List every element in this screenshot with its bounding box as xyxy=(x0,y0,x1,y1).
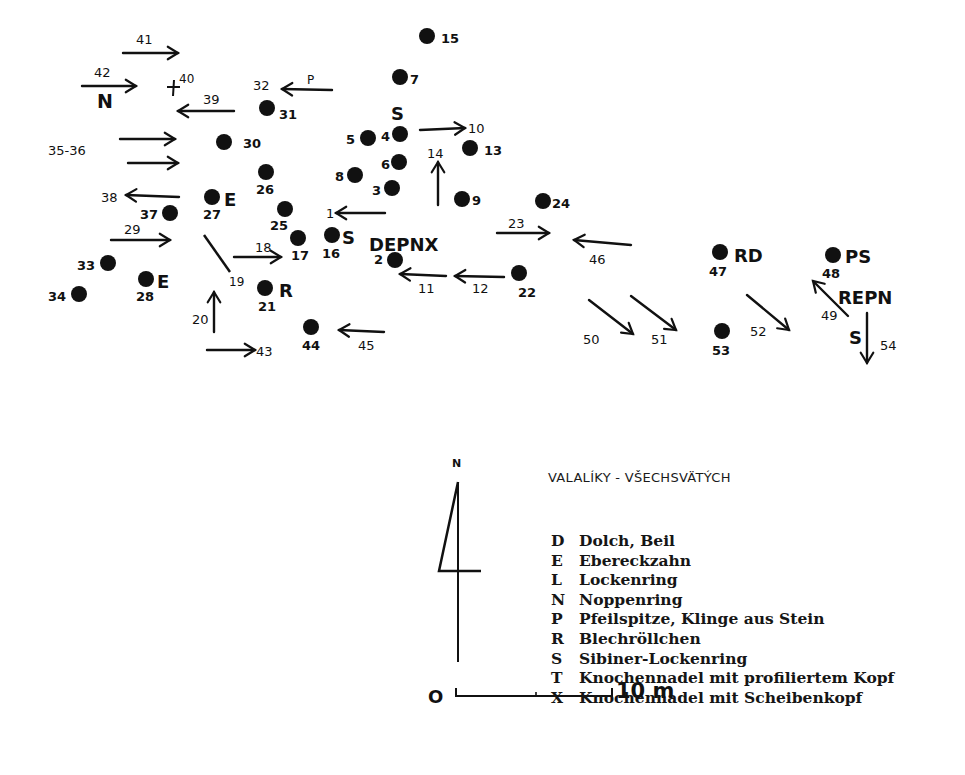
point-label-31: 31 xyxy=(279,107,297,122)
point-label-47: 47 xyxy=(709,264,727,279)
legend-key: E xyxy=(551,551,579,571)
find-point-24-icon xyxy=(535,193,551,209)
point-label-53: 53 xyxy=(712,343,730,358)
label-layer: 1573130541368392426273725171622233283421… xyxy=(48,31,897,359)
legend-item-p: PPfeilspitze, Klinge aus Stein xyxy=(551,609,894,629)
category-mark-S-54: S xyxy=(849,327,862,348)
scale-end-label: 10 m xyxy=(616,679,674,703)
find-point-34-icon xyxy=(71,286,87,302)
arrow-label-29: 29 xyxy=(124,222,141,237)
north-label: N xyxy=(452,457,461,470)
find-point-47-icon xyxy=(712,244,728,260)
find-point-9-icon xyxy=(454,191,470,207)
arrow-43-icon xyxy=(207,344,255,357)
label-19: 19 xyxy=(229,275,244,289)
arrow-label-52: 52 xyxy=(750,324,767,339)
label-35-36: 35-36 xyxy=(48,143,86,158)
object-19-stroke xyxy=(204,235,230,272)
legend-text: Dolch, Beil xyxy=(579,531,675,551)
arrow-35-icon xyxy=(120,133,175,146)
arrow-label-38: 38 xyxy=(101,190,118,205)
point-label-34: 34 xyxy=(48,289,66,304)
legend-key: S xyxy=(551,649,579,669)
cross-marker-icon xyxy=(173,80,174,96)
find-point-48-icon xyxy=(825,247,841,263)
point-label-6: 6 xyxy=(381,157,390,172)
find-point-30-icon xyxy=(216,134,232,150)
find-point-17-icon xyxy=(290,230,306,246)
point-label-16: 16 xyxy=(322,246,340,261)
legend-text: Ebereckzahn xyxy=(579,551,691,571)
category-mark-REPN: REPN xyxy=(838,287,892,308)
legend-key: L xyxy=(551,570,579,590)
legend-text: Blechröllchen xyxy=(579,629,701,649)
find-point-28-icon xyxy=(138,271,154,287)
legend-item-e: EEbereckzahn xyxy=(551,551,894,571)
arrow-label-45: 45 xyxy=(358,338,375,353)
find-point-8-icon xyxy=(347,167,363,183)
point-label-4: 4 xyxy=(381,129,390,144)
find-point-27-icon xyxy=(204,189,220,205)
category-mark-E-27: E xyxy=(224,189,236,210)
find-point-53-icon xyxy=(714,323,730,339)
arrow-14-icon xyxy=(432,162,445,205)
cross-marker-layer xyxy=(167,80,230,272)
arrow-20-icon xyxy=(208,292,221,332)
category-mark-E-28: E xyxy=(157,271,169,292)
find-point-21-icon xyxy=(257,280,273,296)
arrow-label-46: 46 xyxy=(589,252,606,267)
point-label-9: 9 xyxy=(472,193,481,208)
north-arrow-icon xyxy=(439,482,481,662)
arrow-label-51: 51 xyxy=(651,332,668,347)
category-mark-PS-48: PS xyxy=(845,246,871,267)
arrow-1-icon xyxy=(336,207,385,220)
legend-key: P xyxy=(551,609,579,629)
arrow-label-32: 32 xyxy=(253,78,270,93)
arrow-label-12: 12 xyxy=(472,281,489,296)
point-label-25: 25 xyxy=(270,218,288,233)
find-point-44-icon xyxy=(303,319,319,335)
point-label-48: 48 xyxy=(822,266,840,281)
find-point-13-icon xyxy=(462,140,478,156)
arrow-label-39: 39 xyxy=(203,92,220,107)
find-point-16-icon xyxy=(324,227,340,243)
arrow-36-icon xyxy=(128,157,178,170)
arrow-label-41: 41 xyxy=(136,32,153,47)
point-label-15: 15 xyxy=(441,31,459,46)
point-label-13: 13 xyxy=(484,143,502,158)
point-label-21: 21 xyxy=(258,299,276,314)
point-label-22: 22 xyxy=(518,285,536,300)
arrow-51-icon xyxy=(631,296,676,330)
find-point-26-icon xyxy=(258,164,274,180)
find-point-31-icon xyxy=(259,100,275,116)
point-label-3: 3 xyxy=(372,183,381,198)
legend-text: Pfeilspitze, Klinge aus Stein xyxy=(579,609,824,629)
arrow-label-23: 23 xyxy=(508,216,525,231)
legend-key: N xyxy=(551,590,579,610)
category-mark-S-16: S xyxy=(342,227,355,248)
point-label-28: 28 xyxy=(136,289,154,304)
legend-item-x: XKnochennadel mit Scheibenkopf xyxy=(551,688,894,708)
point-label-27: 27 xyxy=(203,207,221,222)
legend-item-l: LLockenring xyxy=(551,570,894,590)
arrow-label-10: 10 xyxy=(468,121,485,136)
arrow-10-icon xyxy=(420,122,465,135)
find-point-6-icon xyxy=(391,154,407,170)
arrow-label-18: 18 xyxy=(255,240,272,255)
arrow-label-20: 20 xyxy=(192,312,209,327)
legend-item-t: TKnochennadel mit profiliertem Kopf xyxy=(551,668,894,688)
find-point-22-icon xyxy=(511,265,527,281)
legend-key: R xyxy=(551,629,579,649)
legend-text: Noppenring xyxy=(579,590,682,610)
find-point-37-icon xyxy=(162,205,178,221)
arrow-41-icon xyxy=(123,47,178,60)
legend-item-s: SSibiner-Lockenring xyxy=(551,649,894,669)
legend-key: D xyxy=(551,531,579,551)
arrow-label-50: 50 xyxy=(583,332,600,347)
point-label-30: 30 xyxy=(243,136,261,151)
scale-start-label: O xyxy=(428,686,443,707)
arrow-54-icon xyxy=(861,313,874,363)
arrow-label-1: 1 xyxy=(326,206,334,221)
label-p: P xyxy=(307,73,314,87)
point-label-17: 17 xyxy=(291,248,309,263)
